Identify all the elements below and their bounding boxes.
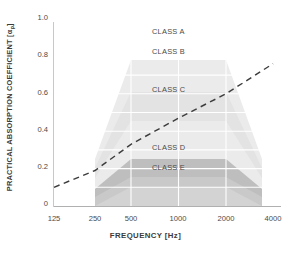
- annotation-class-e: CLASS E: [152, 163, 185, 172]
- y-axis-symbol: α: [5, 30, 14, 35]
- annotation-class-a: CLASS A: [152, 27, 185, 36]
- x-tick-2000: 2000: [206, 214, 246, 223]
- x-tick-250: 250: [75, 214, 115, 223]
- annotation-class-c: CLASS C: [152, 85, 185, 94]
- y-axis-title-suffix: ]: [5, 23, 14, 26]
- y-tick-0-6: 0.6: [22, 88, 48, 97]
- chart-container: PRACTICAL ABSORPTION COEFFICIENT [αp] 0 …: [0, 0, 291, 253]
- y-tick-1-0: 1.0: [22, 13, 48, 22]
- y-tick-0: 0: [22, 199, 48, 208]
- x-tick-125: 125: [34, 214, 74, 223]
- y-tick-0-2: 0.2: [22, 162, 48, 171]
- x-tick-500: 500: [111, 214, 151, 223]
- x-axis-title: FREQUENCY [Hz]: [0, 231, 291, 240]
- y-axis-subscript: p: [9, 26, 15, 30]
- y-tick-0-8: 0.8: [22, 50, 48, 59]
- y-axis-title-text: PRACTICAL ABSORPTION COEFFICIENT [: [5, 35, 14, 192]
- x-tick-1000: 1000: [158, 214, 198, 223]
- annotation-class-d: CLASS D: [152, 143, 185, 152]
- y-axis-title: PRACTICAL ABSORPTION COEFFICIENT [αp]: [0, 0, 20, 215]
- annotation-class-b: CLASS B: [152, 47, 185, 56]
- y-tick-0-4: 0.4: [22, 125, 48, 134]
- x-tick-4000: 4000: [253, 214, 291, 223]
